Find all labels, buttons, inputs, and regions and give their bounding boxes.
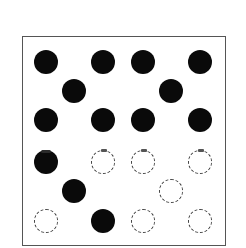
filled-dot	[188, 50, 212, 74]
filled-dot	[34, 50, 58, 74]
filled-dot	[159, 79, 183, 103]
filled-dot	[131, 50, 155, 74]
empty-dot	[131, 150, 155, 174]
filled-dot	[62, 79, 86, 103]
empty-dot	[188, 209, 212, 233]
filled-dot	[131, 108, 155, 132]
empty-dot	[159, 179, 183, 203]
dot-mark	[101, 149, 107, 152]
filled-dot	[62, 179, 86, 203]
filled-dot	[34, 108, 58, 132]
filled-dot	[34, 150, 58, 174]
dot-mark	[141, 149, 147, 152]
empty-dot	[91, 150, 115, 174]
filled-dot	[91, 50, 115, 74]
empty-dot	[188, 150, 212, 174]
empty-dot	[131, 209, 155, 233]
empty-dot	[34, 209, 58, 233]
dot-mark	[198, 149, 204, 152]
filled-dot	[188, 108, 212, 132]
filled-dot	[91, 209, 115, 233]
dot-notch	[41, 150, 51, 153]
filled-dot	[91, 108, 115, 132]
